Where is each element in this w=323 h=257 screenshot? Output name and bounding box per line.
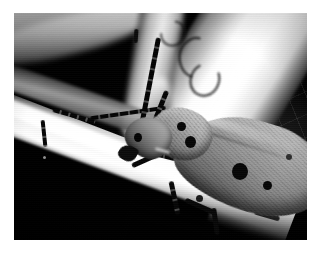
- elytra-spot-3: [196, 195, 203, 202]
- left-antenna-segment-b: [52, 108, 95, 124]
- right-antenna-tip: [134, 29, 139, 43]
- beetle-photograph: [14, 13, 307, 240]
- page-canvas: [0, 0, 323, 257]
- pronotum-spot-2: [185, 136, 196, 148]
- midleg-femur: [169, 181, 181, 215]
- hindleg-femur: [211, 208, 220, 236]
- elytra-spot-1: [232, 163, 248, 180]
- longhorn-beetle: [14, 13, 307, 240]
- pronotum-spot-1: [177, 122, 186, 131]
- elytra-spot-2: [263, 181, 272, 190]
- left-antenna-tip: [40, 120, 47, 148]
